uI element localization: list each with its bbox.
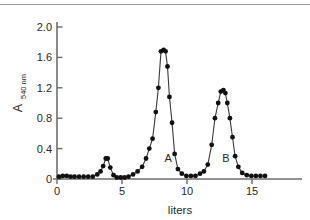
y-tick-label: 0.4 [37,143,52,155]
data-point [236,164,241,169]
x-axis-ticklabels: 051015 [54,185,258,197]
data-point [249,174,254,179]
data-point [240,171,245,176]
chromatogram-plot: 00.40.81.21.62.0 051015 AB liters A 540 … [0,0,310,220]
data-point [108,165,113,170]
data-point [244,173,249,178]
data-point [228,116,233,121]
peak-label-b: B [222,152,229,164]
x-tick-label: 0 [54,185,60,197]
x-tick-label: 10 [181,185,193,197]
data-point [163,49,168,54]
data-point [77,174,82,179]
x-tick-label: 15 [246,185,258,197]
chromatogram-figure: 00.40.81.21.62.0 051015 AB liters A 540 … [0,0,310,220]
x-tick-label: 5 [119,185,125,197]
data-point [153,110,158,115]
data-point [170,120,175,125]
y-tick-label: 1.6 [37,51,52,63]
x-axis-title: liters [168,204,193,216]
y-axis-group: 00.40.81.21.62.0 [37,21,63,185]
y-tick-label: 0.8 [37,112,52,124]
data-point [150,136,155,141]
data-point [147,146,152,151]
data-point [131,172,136,177]
y-tick-label: 2.0 [37,21,52,33]
data-point [126,174,131,179]
data-point [172,152,177,157]
data-point [254,174,259,179]
data-point [230,135,235,140]
y-tick-label: 1.2 [37,82,52,94]
peak-label-a: A [164,152,172,164]
data-point [72,174,77,179]
data-point [233,154,238,159]
data-point [225,101,230,106]
data-point [223,91,228,96]
data-point [105,156,110,161]
data-point [258,174,263,179]
y-axis-ticks [57,27,63,179]
data-point [156,85,161,90]
y-axis-title-subscript: 540 nm [19,74,28,99]
data-point [184,174,189,179]
y-axis-ticklabels: 00.40.81.21.62.0 [37,21,52,185]
data-point [189,174,194,179]
data-point [176,167,181,172]
data-point [202,169,207,174]
data-point [86,174,91,179]
data-point [167,95,172,100]
data-point [165,64,170,69]
y-axis-title: A 540 nm [11,74,28,112]
data-point [140,164,145,169]
data-point [179,171,184,176]
data-point [205,162,210,167]
data-point [98,169,103,174]
x-axis-group: 051015 [53,179,302,197]
data-point [193,174,198,179]
data-point [135,169,140,174]
y-axis-title-main: A [11,103,25,112]
data-point [209,142,214,147]
data-point [81,174,86,179]
y-tick-label: 0 [46,173,52,185]
data-point [263,174,268,179]
data-point [101,164,106,169]
data-point [213,116,218,121]
data-point [216,101,221,106]
data-point [144,156,149,161]
data-point [90,174,95,179]
